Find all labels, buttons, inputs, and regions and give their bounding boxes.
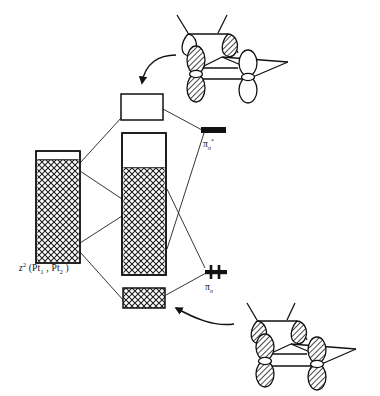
center-lower-band-rect xyxy=(123,288,165,308)
lobe-right-pz-node-2 xyxy=(311,360,324,367)
band-center-lower xyxy=(123,288,165,308)
lobe-front-right-hatched xyxy=(222,34,237,57)
mo-band-diagram: z2 (Pt1 , Pt2 ) πσ* πσ xyxy=(0,0,380,396)
band-center-main xyxy=(122,133,166,275)
pi-subscript: σ xyxy=(210,288,213,294)
pi-sigma-label: πσ xyxy=(205,283,213,294)
pi-sigma-bar xyxy=(205,270,227,274)
left-band-label-mid: , Pt xyxy=(44,263,60,273)
left-band-label-close: ) xyxy=(63,263,69,273)
left-band-label: z2 (Pt1 , Pt2 ) xyxy=(19,262,69,275)
line-left-bottom-to-main xyxy=(80,216,122,243)
lobe-right-pz-top-hatched-2 xyxy=(308,337,326,363)
line-upper-box-to-pi-star xyxy=(163,109,202,130)
pi-star-subscript: σ xyxy=(208,145,211,151)
diagram-canvas xyxy=(0,0,380,396)
level-pi-sigma xyxy=(205,265,227,279)
band-center-upper-empty xyxy=(121,94,163,120)
lobe-left-pz-node-2 xyxy=(259,357,272,364)
lobe-right-pz-top-white xyxy=(239,50,257,76)
level-pi-sigma-star xyxy=(201,127,226,133)
line-main-band-to-pi xyxy=(167,189,205,268)
center-upper-box-outline xyxy=(121,94,163,120)
orbital-pi-sigma-star xyxy=(177,15,288,103)
pi-sigma-star-bar xyxy=(201,127,226,133)
band-left-filled-region xyxy=(37,160,78,262)
lobe-right-pz-node xyxy=(242,73,255,80)
bottom-curved-arrow xyxy=(176,308,234,325)
line-main-band-to-pi-star xyxy=(167,133,204,249)
orbital-pi-sigma xyxy=(247,303,356,390)
left-band-label-open: (Pt xyxy=(26,263,40,273)
line-lower-band-to-pi xyxy=(166,273,206,295)
top-curved-arrow xyxy=(142,55,176,83)
band-left-z2 xyxy=(36,151,80,263)
pi-star-asterisk: * xyxy=(211,138,214,144)
line-left-top-to-upper-box xyxy=(80,118,121,163)
center-main-filled-region xyxy=(123,168,164,274)
lobe-left-pz-top-hatched-2 xyxy=(256,334,274,360)
pi-sigma-star-label: πσ* xyxy=(203,138,214,151)
lobe-front-right-hatched-2 xyxy=(291,321,306,344)
line-left-bottom-to-lower xyxy=(80,252,124,301)
lobe-left-pz-node xyxy=(190,70,203,77)
